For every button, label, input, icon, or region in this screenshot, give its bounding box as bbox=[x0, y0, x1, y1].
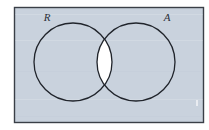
scan-speck bbox=[196, 100, 198, 106]
venn-diagram-figure: R A bbox=[0, 0, 209, 130]
venn-diagram-canvas: R A bbox=[0, 0, 209, 130]
set-label-r: R bbox=[43, 11, 51, 23]
set-label-a: A bbox=[163, 11, 171, 23]
